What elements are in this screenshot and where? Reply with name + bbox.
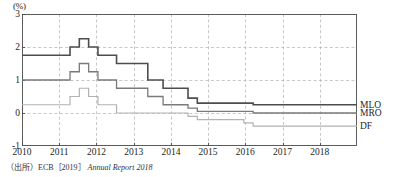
x-tick-label: 2018 <box>300 147 340 158</box>
x-tick-label: 2010 <box>2 147 42 158</box>
series-line-df <box>22 88 357 126</box>
x-tick-label: 2015 <box>188 147 228 158</box>
x-tick-label: 2011 <box>39 147 79 158</box>
legend-entry-df: DF <box>360 121 372 131</box>
series-line-mro <box>22 64 357 114</box>
x-tick-label: 2012 <box>76 147 116 158</box>
x-axis-tick-labels: 201020112012201320142015201620172018 <box>0 147 401 161</box>
y-tick-label: 0 <box>4 108 20 118</box>
x-tick-label: 2014 <box>151 147 191 158</box>
y-tick-label: 3 <box>4 9 20 19</box>
y-tick-label: 2 <box>4 42 20 52</box>
x-tick-label: 2013 <box>114 147 154 158</box>
source-label: （出所） <box>6 163 38 172</box>
ecb-policy-rates-chart: (%) 3210-1 20102011201220132014201520162… <box>0 0 401 177</box>
x-tick-label: 2017 <box>263 147 303 158</box>
source-body: ECB［2019］ <box>38 163 86 172</box>
source-note: （出所）ECB［2019］ Annual Report 2018 <box>6 163 152 173</box>
source-title: Annual Report 2018 <box>88 163 153 172</box>
plot-area <box>22 14 357 146</box>
x-tick-label: 2016 <box>225 147 265 158</box>
legend-entry-mro: MRO <box>360 108 382 118</box>
plot-svg <box>22 14 357 146</box>
y-tick-label: 1 <box>4 75 20 85</box>
